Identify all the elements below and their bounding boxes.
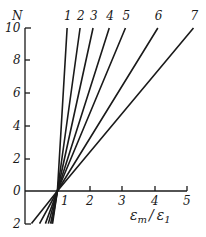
x-tick-label-2: 2 <box>85 194 94 208</box>
series-label-2: 2 <box>76 9 85 23</box>
y-tick-label-4: 4 <box>12 119 21 133</box>
series-label-4: 4 <box>105 9 114 23</box>
x-tick-label-5: 5 <box>183 194 191 208</box>
series-label-3: 3 <box>90 9 98 23</box>
series-labels: 1234567 <box>64 9 198 23</box>
y-tick-label-2: 2 <box>12 152 21 166</box>
series-label-5: 5 <box>122 9 130 23</box>
y-tick-label-8: 8 <box>13 53 21 67</box>
y-tick-label-10: 10 <box>5 21 21 35</box>
x-axis-label: εm/ε1 <box>130 207 171 225</box>
y-tick-label-minus-2: 2 <box>12 217 21 231</box>
x-tick-label-3: 3 <box>118 194 126 208</box>
series-label-1: 1 <box>64 9 72 23</box>
series-label-7: 7 <box>190 9 198 23</box>
chart-canvas: N 10 8 6 4 2 0 2 1 2 3 4 5 εm/ε1 1234567 <box>0 0 206 237</box>
x-tick-label-1: 1 <box>61 194 69 208</box>
series-label-6: 6 <box>155 9 163 23</box>
series-lines <box>31 28 193 224</box>
y-tick-label-6: 6 <box>13 86 21 100</box>
x-tick-label-4: 4 <box>150 194 159 208</box>
y-tick-label-0: 0 <box>13 184 21 198</box>
